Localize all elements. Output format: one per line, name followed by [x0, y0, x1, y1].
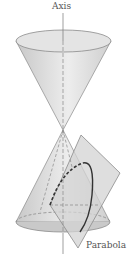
parabola-label: Parabola [86, 240, 126, 250]
axis-label: Axis [52, 1, 71, 11]
conic-section-diagram [0, 0, 138, 254]
upper-nappe [16, 30, 111, 130]
